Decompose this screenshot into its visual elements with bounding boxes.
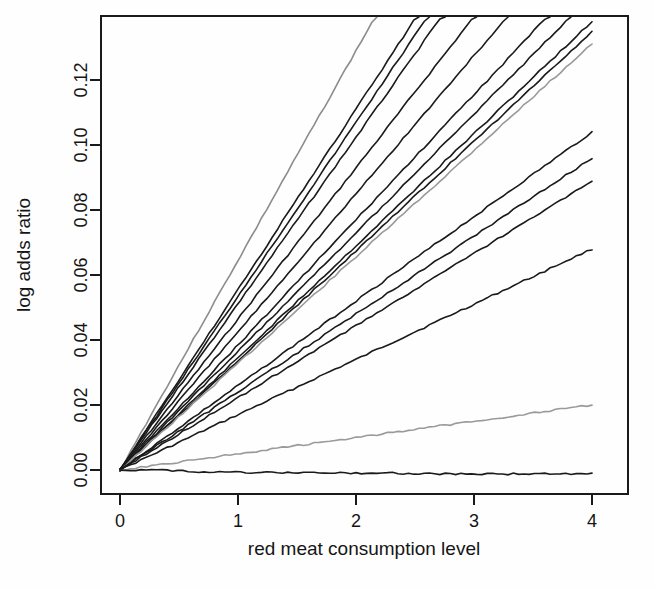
- y-tick-label-0.02: 0.02: [71, 387, 91, 422]
- y-tick-label-0.06: 0.06: [71, 257, 91, 292]
- x-tick-label-1: 1: [233, 511, 243, 531]
- x-tick-label-4: 4: [587, 511, 597, 531]
- y-tick-label-0.08: 0.08: [71, 192, 91, 227]
- dose-response-line-chart: 01234 0.000.020.040.060.080.100.12 red m…: [0, 0, 654, 589]
- x-tick-label-2: 2: [351, 511, 361, 531]
- figure-background: [0, 0, 654, 589]
- x-tick-label-0: 0: [115, 511, 125, 531]
- chart-figure: 01234 0.000.020.040.060.080.100.12 red m…: [0, 0, 654, 589]
- x-axis-title: red meat consumption level: [248, 538, 480, 559]
- y-axis-title: log adds ratio: [13, 198, 34, 312]
- y-tick-label-0.00: 0.00: [71, 452, 91, 487]
- y-tick-label-0.04: 0.04: [71, 322, 91, 357]
- y-tick-label-0.10: 0.10: [71, 127, 91, 162]
- y-tick-label-0.12: 0.12: [71, 62, 91, 97]
- x-tick-label-3: 3: [469, 511, 479, 531]
